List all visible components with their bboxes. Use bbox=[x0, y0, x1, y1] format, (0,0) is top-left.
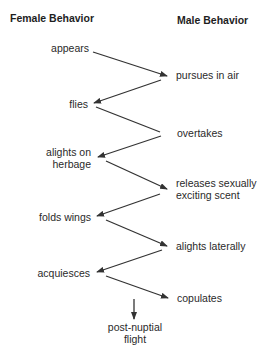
arrow-herbage-to-releases bbox=[106, 161, 167, 189]
arrow-folds-wings-to-alights-laterally bbox=[106, 220, 167, 246]
arrow-scent-to-folds-wings bbox=[97, 194, 160, 216]
arrow-overtakes-to-alights-on bbox=[98, 136, 161, 157]
arrows-layer bbox=[0, 0, 272, 353]
arrow-alights-laterally-to-acquiesces bbox=[97, 250, 162, 272]
arrow-appears-to-pursues bbox=[93, 52, 167, 76]
arrow-pursues-to-flies bbox=[94, 80, 161, 103]
line-flies-to-overtakes bbox=[96, 107, 160, 132]
arrow-acquiesces-to-copulates bbox=[106, 276, 168, 298]
